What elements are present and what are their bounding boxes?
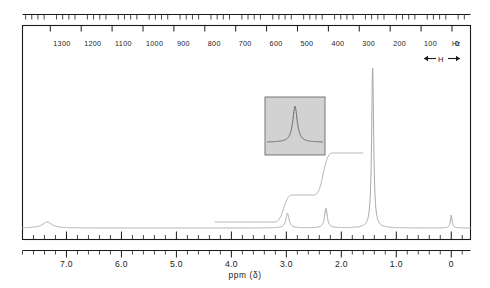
- hz-tick-label: 1100: [115, 39, 132, 48]
- ppm-tick-label: 3.0: [280, 259, 293, 269]
- hz-tick-label: 300: [362, 39, 375, 48]
- hz-axis-ticks: [23, 15, 471, 32]
- hz-tick-label: 800: [208, 39, 221, 48]
- ppm-tick-label: 1.0: [390, 259, 403, 269]
- hz-tick-label: 600: [270, 39, 283, 48]
- hz-axis-labels: 1300120011001000900800700600500400300200…: [53, 39, 459, 48]
- sweep-width-marker: H: [424, 55, 460, 64]
- hz-tick-label: 700: [239, 39, 252, 48]
- hz-tick-label: 1300: [53, 39, 70, 48]
- hz-tick-label: 1000: [146, 39, 163, 48]
- ppm-axis-ticks: [23, 232, 471, 258]
- spectrum-chart-canvas: 1300120011001000900800700600500400300200…: [0, 0, 490, 288]
- ppm-tick-label: 2.0: [335, 259, 348, 269]
- ppm-tick-label: 4.0: [225, 259, 238, 269]
- integral-trace: [215, 153, 363, 222]
- hz-tick-label: 200: [393, 39, 406, 48]
- chart-frame: [23, 26, 471, 240]
- sweep-marker-label: H: [438, 55, 443, 64]
- ppm-axis-labels: 7.06.05.04.03.02.01.00: [60, 259, 454, 269]
- ppm-tick-label: 0: [449, 259, 454, 269]
- ppm-tick-label: 5.0: [170, 259, 183, 269]
- hz-tick-label: 400: [331, 39, 344, 48]
- ppm-tick-label: 6.0: [115, 259, 128, 269]
- hz-tick-label: 1200: [84, 39, 101, 48]
- hz-tick-label: 100: [424, 39, 437, 48]
- ppm-axis-caption: ppm (δ): [228, 270, 261, 280]
- ppm-tick-label: 7.0: [60, 259, 73, 269]
- nmr-figure: 1300120011001000900800700600500400300200…: [0, 0, 490, 288]
- hz-tick-label: 900: [177, 39, 190, 48]
- hz-unit-label: Hz: [452, 40, 460, 47]
- spectrum-trace: [23, 68, 471, 228]
- expansion-inset: [265, 97, 325, 155]
- hz-tick-label: 500: [300, 39, 313, 48]
